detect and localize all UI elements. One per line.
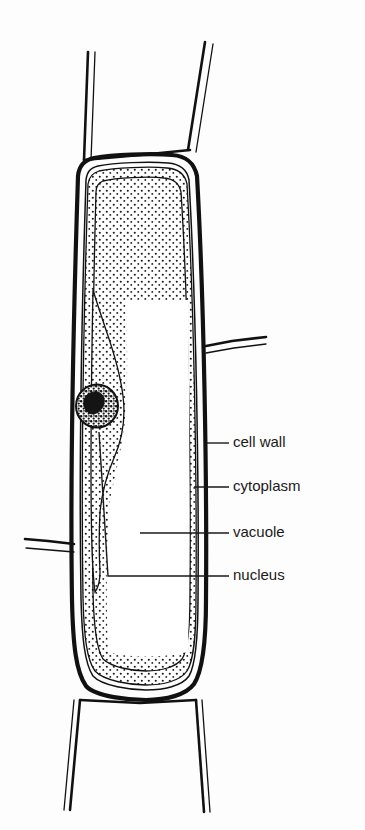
neighbor-wall-top-right	[188, 42, 205, 150]
neighbor-wall-left-branch-inner	[26, 548, 74, 552]
neighbor-wall-top-left-inner	[91, 52, 95, 160]
label-vacuole: vacuole	[233, 523, 285, 540]
nucleus-body	[76, 385, 118, 428]
neighbor-wall-left-branch	[25, 539, 74, 544]
cell-diagram: cell wall cytoplasm vacuole nucleus	[0, 0, 365, 830]
label-nucleus: nucleus	[233, 566, 285, 583]
neighbor-wall-bottom-left	[70, 700, 80, 810]
neighbor-wall-top-left	[84, 52, 88, 160]
label-cytoplasm: cytoplasm	[233, 477, 301, 494]
label-cell-wall: cell wall	[233, 433, 286, 450]
figure-canvas: cell wall cytoplasm vacuole nucleus	[0, 0, 365, 830]
neighbor-wall-top-right-inner	[196, 44, 213, 152]
label-group: cell wall cytoplasm vacuole nucleus	[233, 433, 301, 583]
